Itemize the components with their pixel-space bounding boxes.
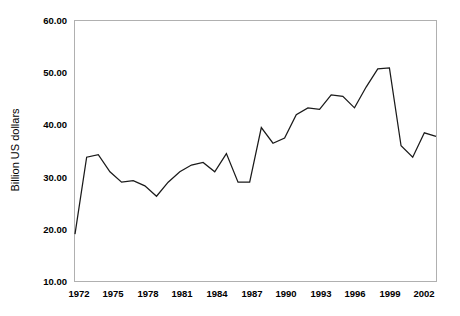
chart-canvas: Billion US dollars 60.00 50.00 40.00 30.…: [0, 0, 460, 316]
x-axis-tick-labels: 1972 1975 1978 1981 1984 1987 1990 1993 …: [68, 288, 434, 299]
y-tick-label-10: 10.00: [43, 276, 67, 287]
y-axis-title: Billion US dollars: [9, 108, 21, 192]
x-tick-label-1987: 1987: [241, 288, 262, 299]
x-tick-label-1972: 1972: [68, 288, 89, 299]
y-tick-label-60: 60.00: [43, 15, 67, 26]
y-tick-label-50: 50.00: [43, 67, 67, 78]
chart-background: [0, 0, 460, 316]
x-tick-label-1993: 1993: [310, 288, 331, 299]
x-tick-label-2002: 2002: [413, 288, 434, 299]
x-tick-label-1996: 1996: [344, 288, 365, 299]
x-tick-label-1990: 1990: [275, 288, 296, 299]
x-tick-label-1999: 1999: [379, 288, 400, 299]
y-tick-label-40: 40.00: [43, 119, 67, 130]
y-tick-label-30: 30.00: [43, 172, 67, 183]
x-tick-label-1984: 1984: [206, 288, 228, 299]
line-chart-figure: Billion US dollars 60.00 50.00 40.00 30.…: [0, 0, 460, 316]
x-tick-label-1978: 1978: [137, 288, 158, 299]
x-tick-label-1981: 1981: [171, 288, 193, 299]
x-tick-label-1975: 1975: [102, 288, 124, 299]
y-tick-label-20: 20.00: [43, 224, 67, 235]
